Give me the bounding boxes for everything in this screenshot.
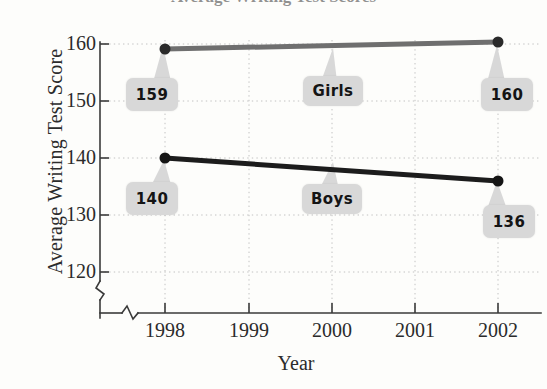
y-tick-label-150: 150 (48, 89, 96, 112)
chart-figure: Average Writing Test Scores Average Writ… (0, 0, 547, 389)
callout-girls-series: Girls (303, 76, 363, 106)
x-tick-label-1998: 1998 (130, 319, 200, 342)
x-axis-title-text: Year (233, 352, 315, 374)
callout-boys-2002: 136 (483, 205, 535, 238)
y-tick-label-130: 130 (48, 203, 96, 226)
callout-boys-1998: 140 (126, 182, 178, 215)
data-point-girls-2002 (493, 37, 504, 48)
callout-girls-2002: 160 (481, 78, 533, 111)
x-tick-label-1999: 1999 (214, 319, 284, 342)
data-point-boys-1998 (160, 153, 171, 164)
data-point-girls-1998 (160, 44, 171, 55)
y-axis-spine (96, 42, 104, 318)
data-point-boys-2002 (493, 176, 504, 187)
series-girls (160, 37, 504, 55)
callout-girls-1998: 159 (126, 78, 178, 111)
y-tick-label-140: 140 (48, 146, 96, 169)
y-tick-label-120: 120 (48, 260, 96, 283)
x-tick-label-2001: 2001 (380, 319, 450, 342)
x-tick-label-2002: 2002 (463, 319, 533, 342)
x-axis-spine (100, 306, 541, 319)
x-axis-title: Year (0, 352, 547, 375)
x-axis-ticks (165, 303, 498, 313)
y-tick-label-160: 160 (48, 32, 96, 55)
x-tick-label-2000: 2000 (297, 319, 367, 342)
y-axis-ticks (100, 44, 109, 272)
callout-boys-series: Boys (302, 184, 362, 214)
